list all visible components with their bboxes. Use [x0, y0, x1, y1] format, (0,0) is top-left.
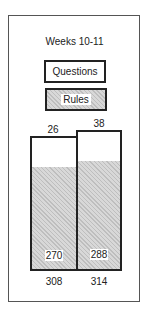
- bar-1-total: 308: [30, 276, 78, 287]
- legend-rules-label: Rules: [61, 94, 91, 105]
- legend-rules: Rules: [45, 88, 107, 111]
- chart-title: Weeks 10-11: [0, 36, 149, 47]
- bar-1-rules-value: 270: [45, 250, 64, 261]
- legend-questions: Questions: [44, 60, 106, 83]
- bar-1: 270: [30, 136, 78, 271]
- bar-2-total: 314: [76, 276, 122, 287]
- bar-2: 288: [76, 130, 122, 271]
- bar-2-questions-segment: [78, 132, 120, 163]
- bar-2-rules-value: 288: [90, 249, 109, 260]
- legend-questions-label: Questions: [52, 66, 97, 77]
- bar-1-questions-segment: [32, 138, 76, 169]
- bar-2-questions-value: 38: [76, 118, 122, 129]
- bar-1-questions-value: 26: [30, 124, 76, 135]
